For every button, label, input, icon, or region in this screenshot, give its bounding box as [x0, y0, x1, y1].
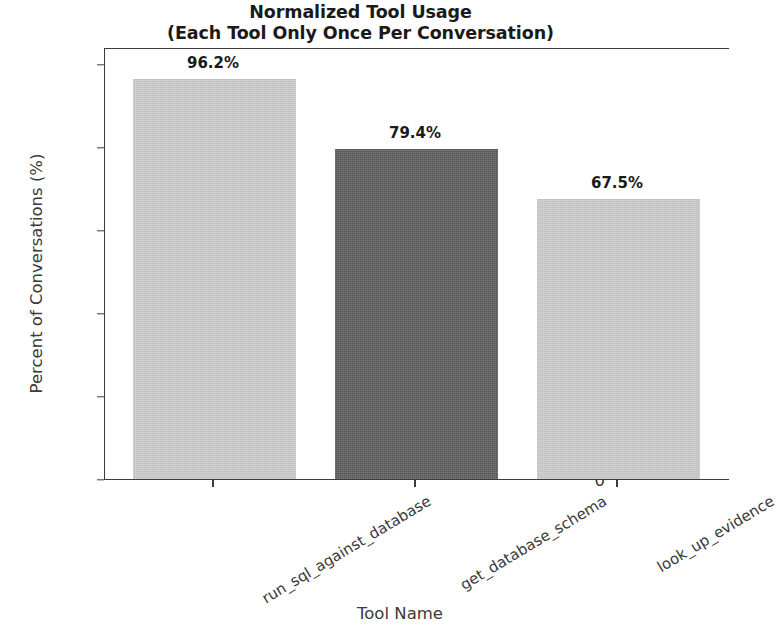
bar-value-label: 79.4%: [334, 124, 497, 142]
y-tick-mark: [97, 313, 104, 314]
y-tick-mark: [97, 479, 104, 480]
x-tick-label: look_up_evidence: [654, 492, 777, 576]
bar-texture: [133, 79, 296, 479]
y-tick-mark: [97, 396, 104, 397]
bar[interactable]: [133, 79, 296, 479]
y-tick-mark: [97, 230, 104, 231]
bar-value-label: 96.2%: [132, 54, 295, 72]
chart-title: Normalized Tool Usage (Each Tool Only On…: [0, 2, 721, 44]
x-axis-label: Tool Name: [0, 604, 779, 623]
y-tick-mark: [97, 64, 104, 65]
bar[interactable]: [537, 199, 700, 479]
x-tick-mark: [212, 480, 213, 487]
bar-value-label: 67.5%: [536, 174, 699, 192]
x-tick-label: get_database_schema: [457, 492, 610, 594]
bar-texture: [537, 199, 700, 479]
y-tick-mark: [97, 147, 104, 148]
x-tick-label: run_sql_against_database: [259, 492, 435, 607]
bar[interactable]: [335, 149, 498, 479]
bar-texture: [335, 149, 498, 479]
x-tick-mark: [616, 480, 617, 487]
y-axis-label: Percent of Conversations (%): [27, 114, 46, 434]
x-tick-mark: [414, 480, 415, 487]
plot-area: [104, 48, 729, 480]
